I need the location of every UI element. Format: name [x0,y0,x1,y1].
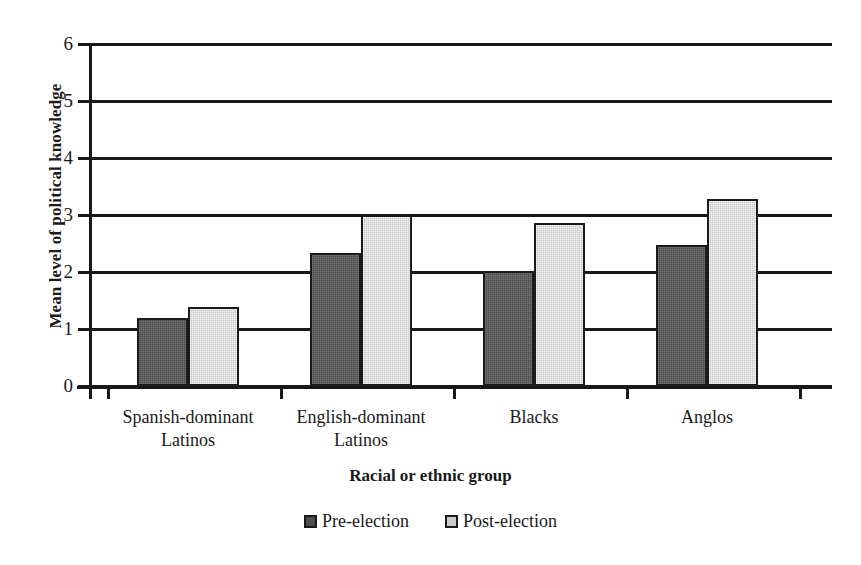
gridline [89,43,832,46]
x-axis-tick [107,386,110,399]
y-axis-tick [78,43,90,46]
gridline [89,157,832,160]
legend-item[interactable]: Pre-election [304,512,409,530]
x-axis-label-line: Latinos [93,429,283,452]
y-axis-tick-label: 3 [45,205,73,224]
x-axis-tick [453,386,456,399]
y-axis-tick-label: 1 [45,319,73,338]
bar-pre-election [310,253,361,386]
x-axis-label-line: Blacks [439,406,629,429]
bar-post-election [707,199,758,386]
x-axis-label-line: English-dominant [266,406,456,429]
y-axis-tick-label: 4 [45,148,73,167]
y-axis-tick-label: 6 [45,34,73,53]
y-axis-tick-label: 2 [45,262,73,281]
bar-chart-figure: Mean level of political knowledge 012345… [0,0,861,565]
x-axis-tick [280,386,283,399]
bar-post-election [361,215,412,386]
gridline [89,100,832,103]
y-axis-tick [78,328,90,331]
x-axis-label-line: Anglos [612,406,802,429]
bar-post-election [188,307,239,386]
y-axis-tick [78,100,90,103]
chart-legend: Pre-electionPost-election [0,512,861,530]
legend-swatch-icon [304,515,317,528]
x-axis-label-line: Latinos [266,429,456,452]
x-axis-category-label: Blacks [439,406,629,429]
x-axis-title: Racial or ethnic group [0,466,861,486]
x-axis-tick [626,386,629,399]
legend-swatch-icon [445,515,458,528]
bar-pre-election [137,318,188,386]
y-axis-tick-label: 0 [45,376,73,395]
legend-label: Pre-election [322,512,409,530]
y-axis-tick [78,271,90,274]
legend-label: Post-election [463,512,557,530]
plot-area: 0123456 Spanish-dominantLatinosEnglish-d… [89,44,832,386]
bar-pre-election [656,245,707,386]
x-axis-label-line: Spanish-dominant [93,406,283,429]
x-axis-category-label: English-dominantLatinos [266,406,456,452]
bar-pre-election [483,271,534,386]
y-axis-line [89,44,92,399]
bar-post-election [534,223,585,386]
legend-item[interactable]: Post-election [445,512,557,530]
x-axis-category-label: Spanish-dominantLatinos [93,406,283,452]
x-axis-tick [799,386,802,399]
y-axis-tick [78,385,90,388]
y-axis-tick-label: 5 [45,91,73,110]
x-axis-category-label: Anglos [612,406,802,429]
y-axis-tick [78,157,90,160]
y-axis-tick [78,214,90,217]
